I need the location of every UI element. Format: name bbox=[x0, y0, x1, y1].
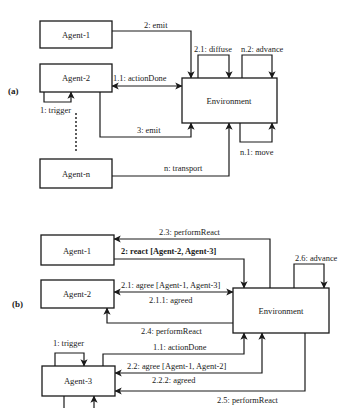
msg-agreed-211-b: 2.1.1: agreed bbox=[149, 296, 193, 305]
environment-box-a: Environment bbox=[182, 78, 277, 123]
msg-perform-react-25-b: 2.5: performReact bbox=[217, 396, 279, 405]
msg-perform-react-23-b: 2.3: performReact bbox=[159, 228, 221, 237]
panel-a-label: (a) bbox=[8, 86, 19, 96]
arrow-trigger-b bbox=[55, 353, 84, 366]
msg-trigger-a: 1: trigger bbox=[40, 106, 71, 115]
agent-2-label-a: Agent-2 bbox=[62, 73, 90, 83]
arrow-advance-a bbox=[242, 55, 272, 78]
agent-n-label-a: Agent-n bbox=[62, 169, 91, 179]
arrow-trigger-a bbox=[44, 92, 71, 102]
agent-n-box-a: Agent-n bbox=[40, 159, 112, 188]
agent-2-box-b: Agent-2 bbox=[41, 280, 114, 308]
msg-action-done-a: 1.1: actionDone bbox=[113, 74, 167, 83]
panel-b-label: (b) bbox=[12, 299, 23, 309]
msg-react-b: 2: react [Agent-2, Agent-3] bbox=[121, 247, 216, 256]
msg-agree-22-b: 2.2: agree [Agent-1, Agent-2] bbox=[127, 362, 227, 371]
msg-advance-b: 2.6: advance bbox=[295, 254, 338, 263]
msg-advance-a: n.2: advance bbox=[241, 45, 284, 54]
agent-1-box-b: Agent-1 bbox=[41, 235, 114, 265]
agent-2-label-b: Agent-2 bbox=[63, 289, 91, 299]
agent-1-label-a: Agent-1 bbox=[62, 30, 90, 40]
environment-label-a: Environment bbox=[207, 96, 252, 106]
diagram-canvas: (a) Agent-1 Agent-2 Agent-n Environment … bbox=[0, 0, 351, 408]
msg-action-done-b: 1.1: actionDone bbox=[153, 343, 207, 352]
environment-box-b: Environment bbox=[233, 288, 329, 333]
msg-trigger-b: 1: trigger bbox=[53, 339, 84, 348]
msg-agree-21-b: 2.1: agree [Agent-1, Agent-3] bbox=[121, 281, 221, 290]
msg-transport-a: n: transport bbox=[164, 164, 203, 173]
agent-2-box-a: Agent-2 bbox=[40, 64, 112, 92]
msg-agreed-222-b: 2.2.2: agreed bbox=[152, 376, 196, 385]
msg-perform-react-24-b: 2.4: performReact bbox=[141, 327, 203, 336]
agent-3-label-b: Agent-3 bbox=[64, 376, 92, 386]
msg-emit-3-a: 3: emit bbox=[137, 126, 161, 135]
panel-a: (a) Agent-1 Agent-2 Agent-n Environment … bbox=[8, 21, 284, 188]
msg-move-a: n.1: move bbox=[240, 148, 274, 157]
arrow-perform-react-24-b bbox=[107, 308, 233, 323]
msg-diffuse-a: 2.1: diffuse bbox=[194, 45, 232, 54]
arrow-move-a bbox=[240, 123, 272, 142]
arrow-emit-2-a bbox=[112, 31, 191, 78]
msg-emit-2-a: 2: emit bbox=[144, 21, 168, 30]
agent-3-box-b: Agent-3 bbox=[42, 366, 115, 396]
environment-label-b: Environment bbox=[259, 306, 304, 316]
agent-1-box-a: Agent-1 bbox=[40, 21, 112, 48]
agent-1-label-b: Agent-1 bbox=[63, 246, 91, 256]
arrow-advance-b bbox=[294, 264, 324, 288]
arrow-diffuse-a bbox=[198, 55, 229, 78]
panel-b: (b) Agent-1 Agent-2 Agent-3 Environment … bbox=[12, 228, 338, 408]
